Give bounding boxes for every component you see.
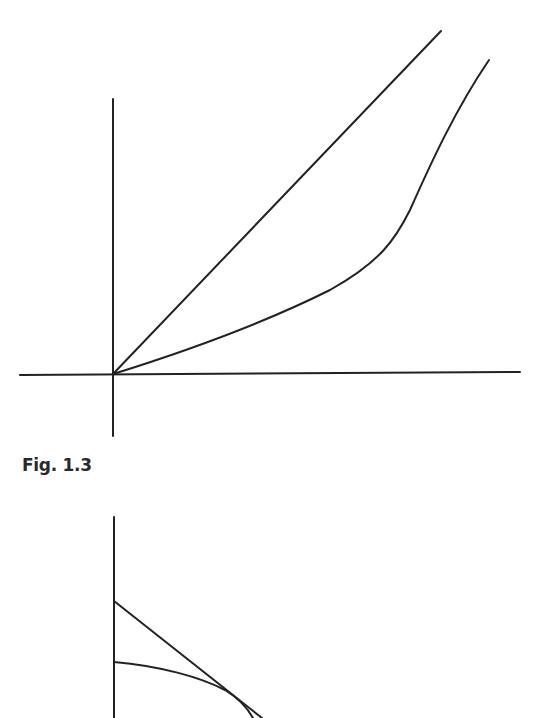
bottom-concave-curve	[114, 662, 253, 718]
figure-canvas	[0, 0, 544, 718]
top-x-axis	[20, 372, 520, 375]
top-straight-line	[113, 31, 441, 374]
top-figure	[20, 31, 520, 436]
figure-caption: Fig. 1.3	[22, 455, 92, 475]
bottom-figure	[114, 517, 262, 718]
top-convex-curve	[113, 60, 489, 374]
